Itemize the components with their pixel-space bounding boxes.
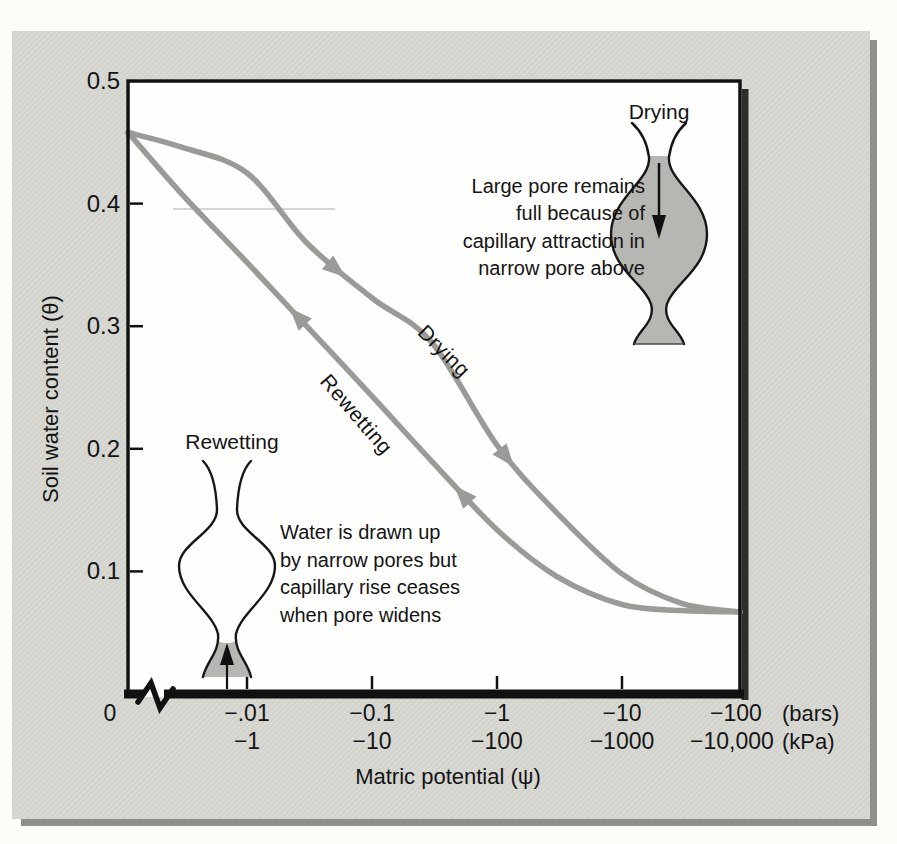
x-tick-label-kpa: −1000	[590, 728, 655, 754]
caption-line: when pore widens	[279, 604, 441, 626]
x-axis-unit-kpa: (kPa)	[782, 729, 835, 754]
x-origin-label: 0	[104, 700, 117, 726]
y-tick-label: 0.2	[87, 435, 120, 462]
x-tick-label-kpa: −10,000	[690, 728, 774, 754]
x-tick-label-bars: −10	[602, 700, 641, 726]
x-tick-label-bars: −100	[710, 700, 762, 726]
x-axis-unit-bars: (bars)	[782, 701, 839, 726]
caption-line: Large pore remains	[472, 175, 645, 197]
x-tick-label-kpa: −1	[234, 728, 260, 754]
y-axis-title: Soil water content (θ)	[38, 295, 63, 503]
drying-pore-label: Drying	[629, 100, 690, 123]
caption-line: by narrow pores but	[280, 549, 457, 571]
caption-line: capillary attraction in	[463, 230, 645, 252]
rewetting-pore-label: Rewetting	[185, 430, 278, 453]
page: Drying Rewetting 0.5	[0, 0, 897, 844]
caption-line: Water is drawn up	[280, 521, 440, 543]
hysteresis-chart: Drying Rewetting 0.5	[12, 31, 870, 819]
x-tick-label-kpa: −10	[352, 728, 391, 754]
x-tick-label-kpa: −100	[471, 728, 523, 754]
figure-panel: Drying Rewetting 0.5	[12, 31, 870, 819]
x-tick-label-bars: −0.1	[349, 700, 394, 726]
caption-line: capillary rise ceases	[280, 576, 460, 598]
x-tick-label-bars: −.01	[224, 700, 269, 726]
x-tick-label-bars: −1	[484, 700, 510, 726]
x-axis-title: Matric potential (ψ)	[355, 764, 541, 789]
y-tick-label: 0.1	[87, 557, 120, 584]
y-tick-label: 0.4	[87, 190, 120, 217]
y-tick-label: 0.3	[87, 312, 120, 339]
y-tick-label: 0.5	[87, 67, 120, 94]
caption-line: full because of	[516, 202, 645, 224]
caption-line: narrow pore above	[478, 257, 645, 279]
plot-shadow	[742, 89, 749, 700]
